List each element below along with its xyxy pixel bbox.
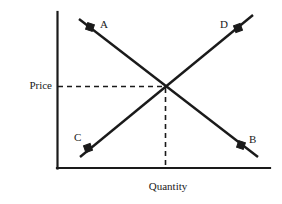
y-axis-title: Price (0, 80, 52, 91)
x-axis-title: Quantity (118, 181, 218, 192)
point-marker-a (86, 23, 95, 32)
point-label-d: D (220, 19, 228, 30)
point-label-c: C (74, 132, 81, 143)
point-marker-c (84, 144, 93, 153)
point-marker-b (237, 141, 246, 150)
point-label-b: B (249, 134, 256, 145)
supply-demand-diagram: Price Quantity A B C D (0, 0, 282, 204)
diagram-canvas (0, 0, 282, 204)
point-label-a: A (100, 19, 108, 30)
